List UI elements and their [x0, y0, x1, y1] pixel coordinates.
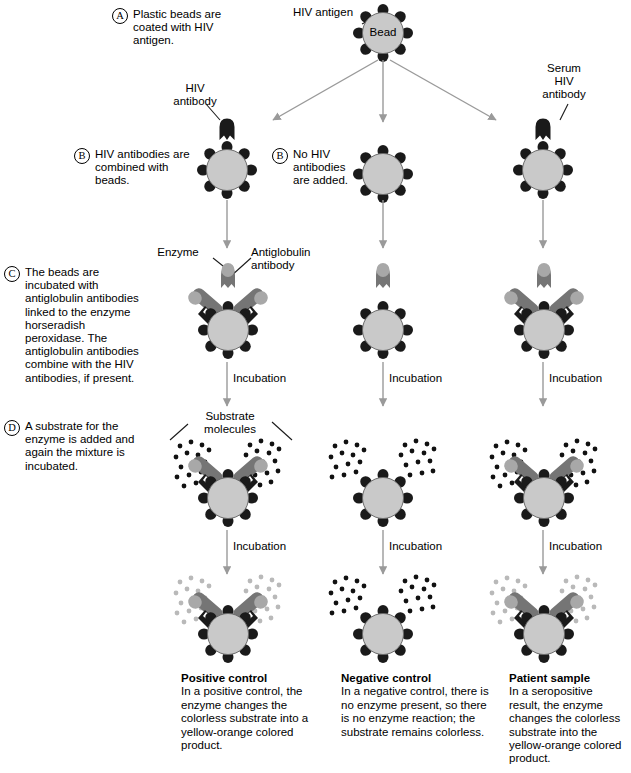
free-antiglobulin-enzyme: [537, 263, 551, 288]
step-b-text: HIV antibodies are combined with beads.: [95, 148, 203, 188]
bead-b-middle: [352, 145, 414, 203]
caption-positive-title: Positive control: [181, 672, 329, 685]
free-antiglobulin-enzyme: [221, 263, 235, 288]
incubation-label-2: Incubation: [389, 372, 442, 385]
caption-negative-title: Negative control: [341, 672, 491, 685]
result-negative-complex: [327, 566, 439, 666]
incubation-label-3: Incubation: [549, 372, 602, 385]
incubation-label-4: Incubation: [233, 540, 286, 553]
arrows-b-to-c: [0, 200, 631, 252]
result-positive-complex: [172, 566, 284, 666]
step-d: D A substrate for the enzyme is added an…: [4, 420, 164, 473]
arrows-c-to-d: [0, 362, 631, 410]
complex-c-middle: [333, 262, 433, 362]
arrow-right: [390, 60, 496, 120]
caption-patient-body: In a seropositive result, the enzyme cha…: [509, 685, 627, 765]
hiv-antibody-icon: [220, 119, 235, 141]
substrate-dots-right: [399, 575, 437, 614]
bead-label: Bead: [353, 26, 413, 39]
hiv-antibody-label-left: HIV antibody: [155, 82, 235, 108]
caption-positive-body: In a positive control, the enzyme change…: [181, 685, 329, 752]
step-a-marker: A: [112, 8, 128, 24]
complex-d-left: [172, 430, 284, 530]
step-d-text: A substrate for the enzyme is added and …: [25, 420, 153, 473]
substrate-dots-left: [329, 440, 367, 480]
complex-c-right: [494, 262, 594, 362]
arrow-left: [273, 60, 378, 120]
result-patient-complex: [488, 566, 600, 666]
step-b2-marker: B: [272, 148, 288, 164]
caption-patient: Patient sample In a seropositive result,…: [509, 672, 627, 766]
step-a-text: Plastic beads are coated with HIV antige…: [133, 8, 253, 48]
bead-b-left: [198, 118, 264, 200]
caption-negative: Negative control In a negative control, …: [341, 672, 491, 739]
substrate-dots-left: [329, 576, 367, 616]
caption-negative-body: In a negative control, there is no enzym…: [341, 685, 491, 739]
step-a: A Plastic beads are coated with HIV anti…: [112, 8, 267, 48]
complex-d-right: [488, 430, 600, 530]
incubation-label-1: Incubation: [233, 372, 286, 385]
serum-hiv-antibody-label: Serum HIV antibody: [524, 62, 604, 102]
complex-c-left: [178, 262, 278, 362]
enzyme-label: Enzyme: [142, 246, 214, 259]
complex-d-middle: [327, 430, 439, 530]
substrate-dots-right: [399, 439, 437, 478]
caption-patient-title: Patient sample: [509, 672, 627, 685]
step-b-marker: B: [74, 148, 90, 164]
step-d-marker: D: [4, 420, 20, 436]
bead-b-right: [514, 118, 580, 200]
hiv-antibody-icon: [536, 119, 551, 141]
free-antiglobulin-enzyme: [376, 263, 390, 288]
incubation-label-6: Incubation: [549, 540, 602, 553]
step-c-marker: C: [4, 266, 20, 282]
caption-positive: Positive control In a positive control, …: [181, 672, 329, 752]
step-b: B HIV antibodies are combined with beads…: [74, 148, 214, 188]
incubation-label-5: Incubation: [389, 540, 442, 553]
